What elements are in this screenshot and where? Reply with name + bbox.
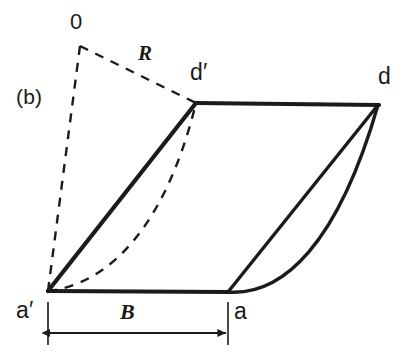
corner-label-a: a — [234, 300, 247, 323]
dimension-label-b: B — [120, 301, 135, 323]
edge-bottom — [48, 291, 229, 292]
plate-outline-group — [48, 103, 379, 292]
corner-label-d-prime: d′ — [190, 61, 208, 84]
panel-label: (b) — [16, 86, 42, 107]
edge-right-chord — [228, 105, 378, 292]
corner-label-a-prime: a′ — [16, 299, 34, 322]
origin-label: 0 — [70, 11, 82, 33]
figure-container: (b) 0 R d′ d a′ a B — [0, 0, 411, 352]
corner-label-d: d — [378, 65, 391, 88]
edge-top — [195, 103, 379, 105]
figure-drawing — [0, 0, 411, 352]
edge-left — [48, 103, 196, 291]
radius-label-R: R — [138, 43, 152, 64]
dimension-b-group — [48, 302, 228, 345]
radius-construction-group — [48, 46, 196, 291]
